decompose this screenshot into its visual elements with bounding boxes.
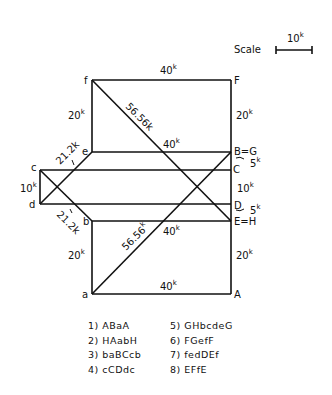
node-f: f: [84, 75, 88, 86]
step-item: 5) GHbcdeG: [170, 319, 233, 334]
scale-value: 10k: [287, 31, 305, 44]
force-BGC: 5k: [250, 156, 261, 169]
force-ba: 20k: [68, 248, 86, 261]
force-ec: 21.2k: [54, 139, 82, 167]
node-d: d: [29, 199, 35, 210]
force-aA: 40k: [160, 279, 178, 292]
steps-list-right: 5) GHbcdeG 6) FGefF 7) fedDEf 8) EFfE: [170, 319, 233, 377]
node-F: F: [234, 75, 240, 86]
steps-list-left: 1) ABaA 2) HAabH 3) baBCcb 4) cCDdc: [88, 319, 141, 377]
force-eBG: 40k: [163, 137, 181, 150]
step-item: 7) fedDEf: [170, 348, 233, 363]
force-cd: 10k: [20, 181, 38, 194]
member-fEH: [92, 80, 231, 221]
node-C: C: [233, 164, 240, 175]
node-a: a: [82, 289, 88, 300]
step-item: 8) EFfE: [170, 363, 233, 378]
step-item: 2) HAabH: [88, 334, 141, 349]
step-item: 4) cCDdc: [88, 363, 141, 378]
force-EHA: 20k: [236, 248, 254, 261]
scale-label: Scale: [234, 44, 261, 55]
node-A: A: [234, 289, 241, 300]
node-D: D: [234, 200, 242, 211]
force-db: 21.2k: [55, 209, 83, 237]
force-fF: 40k: [160, 63, 178, 76]
member-aBG: [92, 152, 231, 294]
node-e: e: [82, 146, 88, 157]
step-item: 3) baBCcb: [88, 348, 141, 363]
step-item: 1) ABaA: [88, 319, 141, 334]
force-fe: 20k: [68, 108, 86, 121]
force-bEH: 40k: [163, 224, 181, 237]
force-polygon-diagram: Scale 10k f F e B=G c C d D b E=H a A 40…: [0, 0, 332, 395]
force-CD: 10k: [237, 181, 255, 194]
force-DEH: 5k: [250, 203, 261, 216]
node-BG: B=G: [234, 146, 257, 157]
step-item: 6) FGefF: [170, 334, 233, 349]
force-F: 20k: [236, 108, 254, 121]
force-aBG: 56.56k: [118, 219, 151, 252]
node-b: b: [83, 216, 89, 227]
node-c: c: [31, 162, 37, 173]
node-EH: E=H: [234, 216, 256, 227]
